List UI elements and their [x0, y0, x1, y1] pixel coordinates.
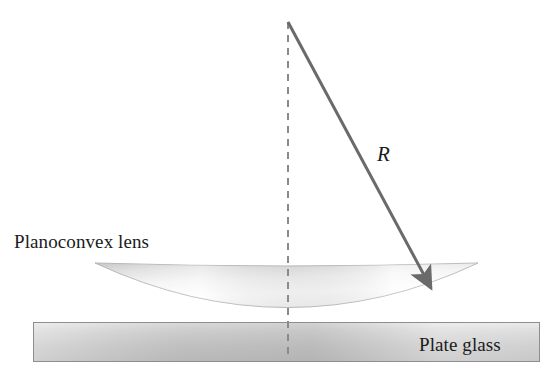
optics-diagram: [0, 0, 546, 377]
planoconvex-lens-label: Planoconvex lens: [14, 231, 149, 253]
plate-glass-label: Plate glass: [419, 334, 501, 356]
radius-arrow: [288, 22, 431, 288]
radius-label: R: [377, 142, 390, 167]
figure-canvas: Planoconvex lens Plate glass R: [0, 0, 546, 377]
